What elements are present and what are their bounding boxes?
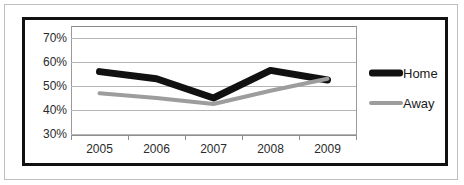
- y-tick-label-60: 60%: [43, 56, 67, 68]
- y-tick-label-30: 30%: [43, 128, 67, 140]
- plot-area: [71, 26, 356, 134]
- chart-legend: Home Away: [369, 58, 447, 118]
- x-tick-2: [185, 135, 186, 140]
- x-tick-label-2007: 2007: [185, 142, 242, 156]
- plot-right-border: [356, 26, 357, 135]
- x-axis-labels: 20052006200720082009: [71, 142, 356, 162]
- legend-item-home: Home: [369, 58, 447, 88]
- x-tick-label-2009: 2009: [299, 142, 356, 156]
- x-tick-label-2006: 2006: [128, 142, 185, 156]
- legend-item-away: Away: [369, 88, 447, 118]
- x-tick-4: [299, 135, 300, 140]
- away-line-swatch: [369, 101, 403, 105]
- x-axis-line: [71, 135, 357, 136]
- y-axis-labels: 70%60%50%40%30%: [25, 20, 71, 163]
- chart-container: 70%60%50%40%30% 20052006200720082009 Hom…: [22, 17, 448, 166]
- x-tick-0: [71, 135, 72, 140]
- x-tick-3: [242, 135, 243, 140]
- screenshot-root: 70%60%50%40%30% 20052006200720082009 Hom…: [0, 0, 464, 185]
- y-tick-label-70: 70%: [43, 32, 67, 44]
- x-tick-end: [356, 135, 357, 140]
- x-tick-label-2008: 2008: [242, 142, 299, 156]
- series-lines: [71, 26, 356, 134]
- legend-label-away: Away: [403, 96, 435, 111]
- legend-label-home: Home: [403, 66, 438, 81]
- x-tick-1: [128, 135, 129, 140]
- chart-body: 70%60%50%40%30% 20052006200720082009 Hom…: [25, 20, 445, 163]
- home-line-swatch: [369, 70, 403, 77]
- y-tick-label-50: 50%: [43, 80, 67, 92]
- y-tick-label-40: 40%: [43, 104, 67, 116]
- x-tick-label-2005: 2005: [71, 142, 128, 156]
